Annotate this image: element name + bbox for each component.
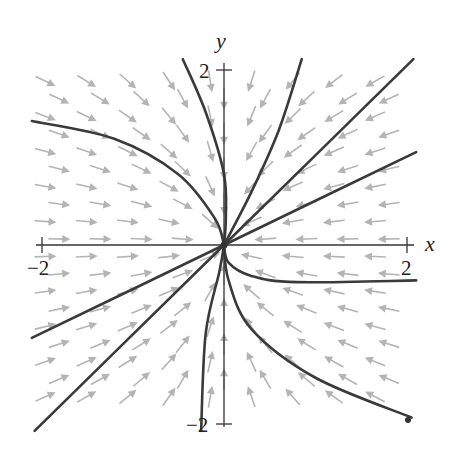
field-arrowhead-icon [62, 270, 70, 278]
field-arrowhead-icon [378, 131, 387, 139]
field-arrowhead-icon [144, 201, 153, 209]
field-arrowhead-icon [247, 83, 255, 92]
x-axis-label: x [424, 231, 435, 256]
direction-field [35, 70, 400, 407]
field-arrowhead-icon [48, 183, 57, 191]
trajectory-curve [224, 245, 416, 282]
field-arrowhead-icon [88, 149, 97, 157]
x-tick-label-2: 2 [401, 256, 412, 280]
field-arrowhead-icon [62, 235, 70, 243]
field-arrowhead-icon [103, 235, 111, 243]
field-arrowhead-icon [296, 270, 305, 278]
field-arrowhead-icon [254, 235, 262, 243]
field-arrowhead-icon [103, 201, 112, 209]
field-arrowhead-icon [169, 320, 178, 328]
field-arrowhead-icon [48, 287, 56, 295]
field-arrowhead-icon [364, 183, 373, 191]
field-arrowhead-icon [282, 218, 291, 226]
field-arrowhead-icon [171, 218, 180, 226]
field-arrowhead-icon [337, 270, 345, 278]
field-arrowhead-icon [207, 153, 215, 162]
field-arrowhead-icon [337, 166, 346, 174]
field-arrowhead-icon [48, 218, 56, 226]
field-arrowhead-icon [337, 235, 345, 243]
field-arrowhead-icon [130, 218, 138, 226]
trajectory-endpoint-dot [405, 417, 411, 423]
field-arrowhead-icon [378, 200, 386, 208]
field-arrowhead-icon [365, 148, 374, 156]
field-arrowhead-icon [62, 200, 70, 208]
field-arrowhead-icon [325, 80, 334, 88]
field-arrowhead-icon [207, 351, 215, 360]
field-arrowhead-icon [337, 201, 346, 209]
field-arrowhead-icon [323, 183, 332, 191]
y-tick-label-neg2: −2 [186, 413, 208, 437]
field-arrowhead-icon [241, 252, 250, 260]
phase-portrait-chart: x y −2 2 2 −2 [0, 0, 463, 459]
field-arrowhead-icon [167, 82, 175, 91]
field-arrowhead-icon [102, 304, 111, 312]
field-arrowhead-icon [378, 270, 386, 278]
trajectory-curve [201, 245, 224, 431]
field-arrowhead-icon [323, 252, 331, 260]
field-arrowhead-icon [47, 357, 56, 365]
field-arrowhead-icon [130, 184, 139, 192]
field-arrowhead-icon [247, 386, 255, 395]
field-arrowhead-icon [102, 166, 111, 174]
field-arrowhead-icon [144, 235, 152, 243]
field-arrowhead-icon [259, 134, 267, 143]
field-arrowhead-icon [90, 252, 98, 260]
field-arrowhead-icon [142, 132, 151, 140]
field-arrowhead-icon [323, 218, 331, 226]
field-arrowhead-icon [168, 388, 176, 397]
field-arrowhead-icon [172, 252, 180, 260]
field-arrowhead-icon [186, 235, 194, 243]
field-arrowhead-icon [284, 150, 293, 158]
field-arrowhead-icon [282, 252, 290, 260]
field-arrowhead-icon [325, 390, 334, 398]
field-arrowhead-icon [88, 322, 97, 330]
field-arrowhead-icon [378, 339, 387, 347]
equilibrium-point [221, 242, 228, 249]
field-arrowhead-icon [282, 287, 291, 295]
field-arrowhead-icon [295, 235, 303, 243]
field-arrowhead-icon [61, 131, 70, 139]
field-arrowhead-icon [131, 252, 139, 260]
field-arrowhead-icon [61, 339, 70, 347]
y-axis-label: y [214, 28, 226, 53]
field-arrowhead-icon [89, 287, 98, 295]
field-arrowhead-icon [47, 148, 56, 156]
field-arrowhead-icon [61, 305, 70, 313]
field-arrowhead-icon [48, 252, 56, 260]
field-arrowhead-icon [364, 322, 373, 330]
y-tick-label-2: 2 [199, 59, 210, 83]
field-arrowhead-icon [61, 166, 70, 174]
field-arrowhead-icon [297, 132, 306, 140]
field-arrowhead-icon [364, 287, 373, 295]
trajectory-curve [32, 245, 224, 338]
field-arrowhead-icon [103, 270, 111, 278]
field-arrowhead-icon [181, 134, 189, 143]
field-arrowhead-icon [364, 252, 372, 260]
field-arrowhead-icon [89, 183, 98, 191]
trajectory-curve [224, 152, 416, 245]
field-arrowhead-icon [89, 218, 97, 226]
trajectory-curve [32, 121, 224, 245]
field-arrowhead-icon [207, 386, 215, 395]
field-arrowhead-icon [364, 218, 372, 226]
field-arrowhead-icon [128, 115, 137, 123]
field-arrowhead-icon [207, 84, 215, 93]
field-arrowhead-icon [378, 235, 386, 243]
field-arrowhead-icon [323, 287, 332, 295]
field-arrowhead-icon [337, 304, 346, 312]
field-arrowhead-icon [144, 270, 153, 278]
x-tick-label-neg2: −2 [27, 256, 49, 280]
field-arrowhead-icon [378, 305, 387, 313]
